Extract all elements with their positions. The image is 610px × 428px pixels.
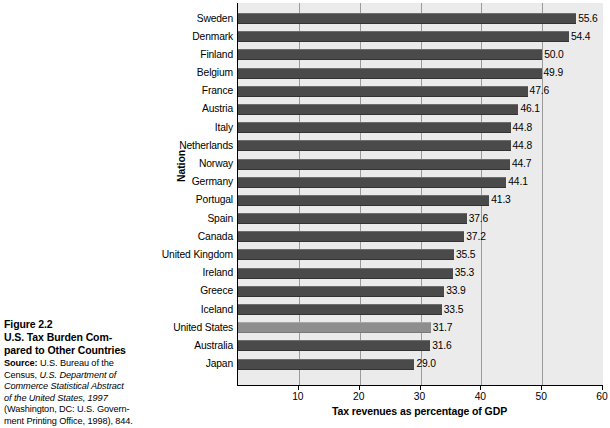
x-tick-20 (359, 386, 360, 390)
y-axis-label: Nation (175, 126, 187, 206)
category-label-united-states: United States (173, 322, 233, 333)
value-label-japan: 29.0 (416, 358, 435, 369)
bar-germany (238, 177, 506, 188)
category-label-italy: Italy (215, 122, 233, 133)
value-label-austria: 46.1 (520, 103, 539, 114)
x-tick-10 (298, 386, 299, 390)
value-label-netherlands: 44.8 (513, 140, 532, 151)
bar-australia (238, 340, 430, 351)
category-label-germany: Germany (192, 176, 233, 187)
value-label-canada: 37.2 (466, 231, 485, 242)
value-label-france: 47.6 (530, 85, 549, 96)
value-label-finland: 50.0 (544, 49, 563, 60)
bar-greece (238, 286, 444, 297)
bar-canada (238, 231, 464, 242)
x-tick-label-40: 40 (460, 391, 500, 402)
category-label-norway: Norway (199, 158, 233, 169)
x-tick-label-30: 30 (400, 391, 440, 402)
value-label-denmark: 54.4 (571, 31, 590, 42)
category-label-australia: Australia (194, 340, 233, 351)
bar-italy (238, 122, 511, 133)
value-label-iceland: 33.5 (444, 304, 463, 315)
category-label-sweden: Sweden (197, 13, 233, 24)
bar-portugal (238, 195, 489, 206)
category-label-canada: Canada (198, 231, 233, 242)
value-label-norway: 44.7 (512, 158, 531, 169)
x-tick-50 (541, 386, 542, 390)
category-label-japan: Japan (206, 358, 233, 369)
value-label-spain: 37.6 (469, 213, 488, 224)
value-label-greece: 33.9 (446, 285, 465, 296)
value-label-italy: 44.8 (513, 122, 532, 133)
category-label-france: France (202, 85, 233, 96)
bar-france (238, 86, 528, 97)
x-tick-label-10: 10 (278, 391, 318, 402)
value-label-sweden: 55.6 (578, 13, 597, 24)
bar-austria (238, 104, 518, 115)
bar-spain (238, 213, 467, 224)
bar-norway (238, 159, 510, 170)
bar-finland (238, 49, 542, 60)
x-tick-label-20: 20 (339, 391, 379, 402)
category-label-greece: Greece (200, 285, 233, 296)
bar-denmark (238, 31, 569, 42)
value-label-ireland: 35.3 (455, 267, 474, 278)
bar-netherlands (238, 140, 511, 151)
bar-iceland (238, 304, 442, 315)
value-label-united-states: 31.7 (433, 322, 452, 333)
bar-belgium (238, 68, 542, 79)
x-tick-40 (480, 386, 481, 390)
x-axis-label: Tax revenues as percentage of GDP (237, 405, 602, 417)
category-label-denmark: Denmark (192, 31, 233, 42)
value-label-united-kingdom: 35.5 (456, 249, 475, 260)
category-label-ireland: Ireland (203, 267, 233, 278)
bar-sweden (238, 13, 576, 24)
value-label-portugal: 41.3 (491, 194, 510, 205)
x-tick-30 (420, 386, 421, 390)
category-label-austria: Austria (202, 103, 233, 114)
category-label-spain: Spain (207, 213, 233, 224)
category-label-united-kingdom: United Kingdom (162, 249, 233, 260)
plot-area (237, 3, 603, 386)
x-tick-label-60: 60 (582, 391, 610, 402)
bar-ireland (238, 268, 453, 279)
category-label-iceland: Iceland (201, 304, 233, 315)
bar-united-kingdom (238, 249, 454, 260)
value-label-germany: 44.1 (508, 176, 527, 187)
x-tick-label-50: 50 (521, 391, 561, 402)
value-label-belgium: 49.9 (544, 67, 563, 78)
category-label-finland: Finland (200, 49, 233, 60)
bar-united-states (238, 322, 431, 333)
category-label-belgium: Belgium (197, 67, 233, 78)
gridline-50 (542, 3, 543, 385)
x-tick-60 (602, 386, 603, 390)
category-label-portugal: Portugal (196, 194, 233, 205)
value-label-australia: 31.6 (432, 340, 451, 351)
bar-japan (238, 359, 414, 370)
category-label-netherlands: Netherlands (179, 140, 233, 151)
